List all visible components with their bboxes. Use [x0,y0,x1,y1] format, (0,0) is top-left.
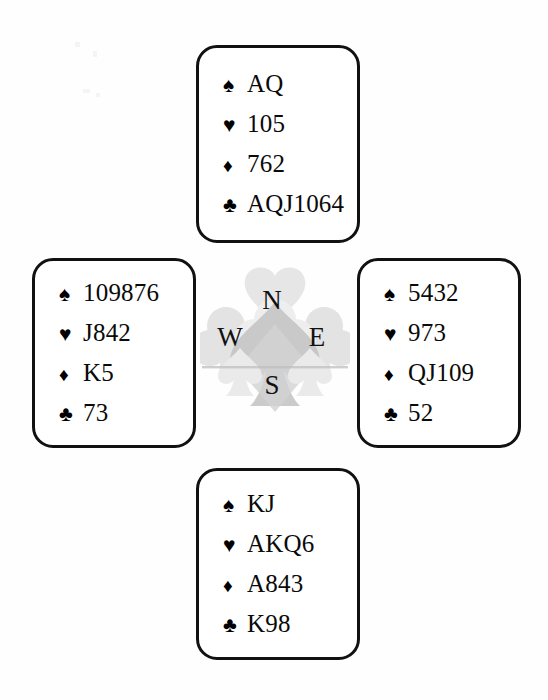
hand-east-spades: 5432 [408,273,459,313]
hand-north-rows: ♠ AQ ♥ 105 ♦ 762 ♣ AQJ1064 [199,48,357,240]
hand-west-clubs: 73 [83,393,108,433]
hand-north-clubs: AQJ1064 [247,184,344,224]
diamond-icon: ♦ [223,566,247,606]
hand-east-diamonds-row: ♦ QJ109 [360,353,474,393]
hand-east-spades-row: ♠ 5432 [360,273,459,313]
hand-north-spades: AQ [247,64,284,104]
diamond-icon: ♦ [59,355,83,395]
scan-speckle [83,89,90,93]
hand-west-clubs-row: ♣ 73 [35,393,108,433]
compass-rose: N W E S [200,262,350,414]
club-icon: ♣ [223,185,247,225]
scan-speckle [93,51,97,57]
hand-west-rows: ♠ 109876 ♥ J842 ♦ K5 ♣ 73 [35,261,193,445]
compass-label-north: N [252,287,292,314]
hand-west-spades-row: ♠ 109876 [35,273,159,313]
club-icon: ♣ [384,394,408,434]
hand-east-clubs: 52 [408,393,433,433]
hand-south-rows: ♠ KJ ♥ AKQ6 ♦ A843 ♣ K98 [199,471,357,657]
hand-south[interactable]: ♠ KJ ♥ AKQ6 ♦ A843 ♣ K98 [196,468,360,660]
hand-south-diamonds: A843 [247,564,303,604]
hand-north[interactable]: ♠ AQ ♥ 105 ♦ 762 ♣ AQJ1064 [196,45,360,243]
diamond-icon: ♦ [384,355,408,395]
spade-icon: ♠ [223,65,247,105]
heart-icon: ♥ [59,314,83,354]
hand-east-hearts-row: ♥ 973 [360,313,446,353]
hand-north-diamonds: 762 [247,144,285,184]
heart-icon: ♥ [223,525,247,565]
compass-label-east: E [297,324,337,351]
hand-north-spades-row: ♠ AQ [199,64,284,104]
hand-west[interactable]: ♠ 109876 ♥ J842 ♦ K5 ♣ 73 [32,258,196,448]
club-icon: ♣ [59,394,83,434]
hand-east-hearts: 973 [408,313,446,353]
scan-speckle [75,42,80,47]
hand-north-hearts-row: ♥ 105 [199,104,285,144]
hand-north-diamonds-row: ♦ 762 [199,144,285,184]
diamond-icon: ♦ [223,146,247,186]
hand-west-hearts: J842 [83,313,131,353]
club-icon: ♣ [223,605,247,645]
hand-east-rows: ♠ 5432 ♥ 973 ♦ QJ109 ♣ 52 [360,261,518,445]
spade-icon: ♠ [59,274,83,314]
hand-west-spades: 109876 [83,273,159,313]
spade-icon: ♠ [384,274,408,314]
spade-icon: ♠ [223,485,247,525]
hand-south-hearts-row: ♥ AKQ6 [199,524,314,564]
hand-west-diamonds: K5 [83,353,114,393]
heart-icon: ♥ [223,105,247,145]
hand-south-spades: KJ [247,484,275,524]
hand-north-clubs-row: ♣ AQJ1064 [199,184,344,224]
hand-east-diamonds: QJ109 [408,353,474,393]
hand-west-hearts-row: ♥ J842 [35,313,131,353]
hand-south-hearts: AKQ6 [247,524,314,564]
bridge-hand-diagram: ♠ AQ ♥ 105 ♦ 762 ♣ AQJ1064 ♠ 109876 [0,0,548,700]
compass-label-south: S [252,372,292,399]
hand-east-clubs-row: ♣ 52 [360,393,433,433]
scan-speckle [96,93,100,97]
hand-east[interactable]: ♠ 5432 ♥ 973 ♦ QJ109 ♣ 52 [357,258,521,448]
hand-south-clubs-row: ♣ K98 [199,604,291,644]
heart-icon: ♥ [384,314,408,354]
hand-north-hearts: 105 [247,104,285,144]
compass-label-west: W [210,324,250,351]
hand-west-diamonds-row: ♦ K5 [35,353,114,393]
hand-south-spades-row: ♠ KJ [199,484,275,524]
hand-south-diamonds-row: ♦ A843 [199,564,303,604]
hand-south-clubs: K98 [247,604,291,644]
